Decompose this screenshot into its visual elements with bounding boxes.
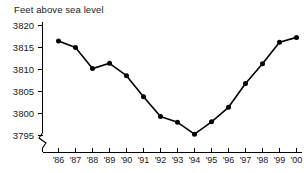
data-point — [90, 66, 95, 71]
data-point — [175, 120, 180, 125]
data-series-markers — [56, 35, 299, 137]
data-point — [107, 61, 112, 66]
data-point — [277, 40, 282, 45]
line-chart: Feet above sea level — [0, 0, 307, 173]
y-tick-label: 3820 — [2, 20, 34, 31]
data-point — [209, 119, 214, 124]
x-tick-label: '00 — [287, 155, 307, 165]
data-point — [124, 73, 129, 78]
data-point — [294, 35, 299, 40]
data-point — [192, 132, 197, 137]
data-point — [243, 81, 248, 86]
data-series-line — [59, 37, 297, 134]
y-tick-label: 3815 — [2, 42, 34, 53]
plot-area — [0, 0, 307, 173]
y-tick-label: 3800 — [2, 108, 34, 119]
data-point — [158, 114, 163, 119]
data-point — [226, 105, 231, 110]
y-tick-label: 3795 — [2, 130, 34, 141]
y-tick-label: 3805 — [2, 86, 34, 97]
y-tick-label: 3810 — [2, 64, 34, 75]
data-point — [56, 38, 61, 43]
data-point — [73, 45, 78, 50]
data-point — [141, 94, 146, 99]
data-point — [260, 61, 265, 66]
